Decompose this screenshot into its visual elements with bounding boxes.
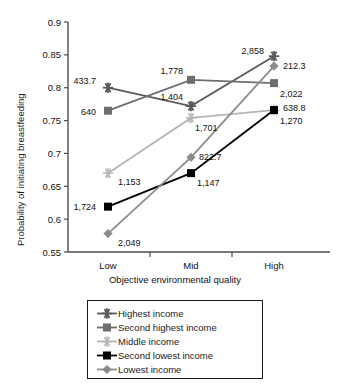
svg-text:High: High bbox=[264, 260, 284, 271]
y-axis-ticks: 0.550.60.650.70.750.80.850.9 bbox=[43, 17, 69, 258]
square-icon bbox=[96, 349, 118, 362]
legend-item: Second highest income bbox=[96, 320, 262, 334]
chart-container: 0.550.60.650.70.750.80.850.9 433.71,4042… bbox=[0, 0, 350, 388]
svg-text:2,049: 2,049 bbox=[118, 238, 141, 248]
legend-item: Middle income bbox=[96, 334, 262, 348]
svg-text:1,724: 1,724 bbox=[73, 202, 96, 212]
svg-text:1,147: 1,147 bbox=[197, 178, 220, 188]
svg-text:Mid: Mid bbox=[183, 260, 198, 271]
svg-text:Low: Low bbox=[99, 260, 117, 271]
legend-item-label: Lowest income bbox=[118, 363, 181, 376]
svg-text:0.65: 0.65 bbox=[43, 181, 62, 192]
svg-text:2,022: 2,022 bbox=[280, 89, 303, 99]
series-markers bbox=[103, 51, 279, 238]
svg-text:0.55: 0.55 bbox=[43, 247, 62, 258]
legend-item-label: Second highest income bbox=[118, 321, 217, 334]
svg-text:1,778: 1,778 bbox=[160, 66, 183, 76]
legend-item-label: Second lowest income bbox=[118, 349, 213, 362]
svg-text:0.7: 0.7 bbox=[48, 148, 61, 159]
svg-text:0.9: 0.9 bbox=[48, 17, 61, 28]
x-axis-title: Objective environmental quality bbox=[109, 274, 241, 285]
y-axis-title: Probability of initiating breastfeeding bbox=[15, 93, 26, 246]
svg-text:0.85: 0.85 bbox=[43, 49, 62, 60]
category-labels: LowMidHigh bbox=[99, 260, 283, 271]
x-axis-ticks bbox=[150, 252, 232, 257]
svg-text:212.3: 212.3 bbox=[283, 61, 306, 71]
svg-text:433.7: 433.7 bbox=[73, 76, 96, 86]
svg-text:640: 640 bbox=[81, 107, 96, 117]
legend-item: Highest income bbox=[96, 306, 262, 320]
svg-text:0.75: 0.75 bbox=[43, 115, 62, 126]
chart-canvas: 0.550.60.650.70.750.80.850.9 433.71,4042… bbox=[0, 0, 350, 290]
asterisk-icon bbox=[96, 307, 118, 320]
axis-lines bbox=[68, 22, 330, 252]
svg-text:0.8: 0.8 bbox=[48, 82, 61, 93]
legend-item: Lowest income bbox=[96, 362, 262, 376]
svg-text:638.8: 638.8 bbox=[283, 103, 306, 113]
legend-item: Second lowest income bbox=[96, 348, 262, 362]
svg-text:1,404: 1,404 bbox=[160, 92, 183, 102]
svg-text:1,270: 1,270 bbox=[280, 116, 303, 126]
y-axis-title-wrap: Probability of initiating breastfeeding bbox=[0, 0, 22, 260]
svg-text:1,701: 1,701 bbox=[195, 123, 218, 133]
svg-text:2,858: 2,858 bbox=[241, 46, 264, 56]
legend-item-label: Highest income bbox=[118, 307, 183, 320]
chart-legend: Highest income Second highest income Mid… bbox=[87, 300, 263, 379]
plot-area: 0.550.60.650.70.750.80.850.9 433.71,4042… bbox=[0, 0, 350, 290]
svg-text:1,153: 1,153 bbox=[118, 177, 141, 187]
svg-text:0.6: 0.6 bbox=[48, 214, 61, 225]
legend-item-label: Middle income bbox=[118, 335, 179, 348]
svg-text:822.7: 822.7 bbox=[199, 152, 222, 162]
square-icon bbox=[96, 321, 118, 334]
diamond-icon bbox=[96, 363, 118, 376]
star-icon bbox=[96, 335, 118, 348]
